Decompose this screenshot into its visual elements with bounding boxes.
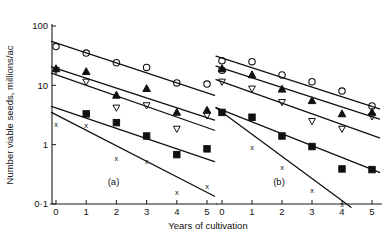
data-point-series-inverted-triangle: [339, 126, 346, 132]
data-point-series-square: [309, 143, 315, 149]
data-point-series-circle: [143, 64, 149, 70]
data-point-series-inverted-triangle: [309, 118, 316, 124]
data-point-series-circle: [309, 79, 315, 85]
fit-line-series-square: [51, 106, 214, 161]
data-point-series-inverted-triangle: [173, 126, 180, 132]
x-axis-tick-label: 1: [249, 206, 254, 217]
data-point-series-inverted-triangle: [113, 105, 120, 111]
fit-line-series-cross: [216, 108, 351, 208]
fit-line-series-inverted-triangle: [51, 73, 214, 130]
x-axis-tick-label: 3: [144, 206, 149, 217]
data-point-series-triangle: [248, 71, 256, 78]
x-axis-tick-label: 0: [219, 206, 224, 217]
data-point-series-circle: [249, 59, 255, 65]
x-axis-tick-label: 0: [53, 206, 58, 217]
data-point-series-triangle: [173, 108, 181, 115]
x-axis-tick-label: 4: [174, 206, 179, 217]
data-point-series-square: [143, 133, 149, 139]
x-axis-tick-label: 5: [369, 206, 374, 217]
data-point-series-square: [339, 166, 345, 172]
data-point-series-triangle: [82, 68, 90, 75]
x-axis-tick-label: 2: [279, 206, 284, 217]
fit-line-series-triangle: [216, 66, 380, 119]
data-point-series-square: [249, 114, 255, 120]
seed-decline-chart: 1001010·1Number viable seeds, millions/a…: [0, 0, 386, 241]
data-point-series-cross: x: [54, 120, 58, 129]
panel-label-b: (b): [273, 176, 285, 187]
data-point-series-circle: [53, 43, 59, 49]
data-point-series-circle: [204, 81, 210, 87]
data-point-series-cross: x: [340, 200, 344, 209]
data-point-series-square: [174, 151, 180, 157]
y-axis-tick-label: 1: [43, 139, 48, 150]
data-point-series-triangle: [143, 85, 151, 92]
fit-line-series-square: [216, 108, 380, 173]
data-point-series-square: [279, 133, 285, 139]
data-point-series-triangle: [338, 110, 346, 117]
data-point-series-cross: x: [220, 109, 224, 118]
x-axis-title: Years of cultivation: [168, 220, 247, 231]
data-point-series-square: [369, 166, 375, 172]
chart-data-layer: xxxxxxxxxxx: [51, 41, 379, 208]
y-axis-tick-label: 100: [32, 20, 48, 31]
data-point-series-cross: x: [84, 121, 88, 130]
fit-line-series-circle: [51, 41, 214, 95]
data-point-series-cross: x: [205, 182, 209, 191]
y-axis-title: Number viable seeds, millions/ac: [4, 45, 15, 184]
x-axis-tick-label: 3: [309, 206, 314, 217]
data-point-series-cross: x: [175, 188, 179, 197]
chart-static-layer: 1001010·1Number viable seeds, millions/a…: [4, 20, 382, 231]
x-axis-tick-label: 2: [114, 206, 119, 217]
fit-line-series-circle: [216, 56, 380, 109]
data-point-series-square: [83, 111, 89, 117]
fit-line-series-inverted-triangle: [216, 80, 380, 138]
data-point-series-cross: x: [250, 143, 254, 152]
data-point-series-cross: x: [280, 163, 284, 172]
data-point-series-square: [113, 119, 119, 125]
data-point-series-cross: x: [115, 154, 119, 163]
panel-label-a: (a): [108, 176, 120, 187]
x-axis-tick-label: 1: [84, 206, 89, 217]
fit-line-series-cross: [51, 112, 214, 196]
y-axis-tick-label: 10: [37, 80, 48, 91]
fit-line-series-triangle: [51, 67, 214, 120]
x-axis-tick-label: 5: [204, 206, 209, 217]
data-point-series-cross: x: [145, 157, 149, 166]
data-point-series-circle: [339, 88, 345, 94]
data-point-series-square: [204, 146, 210, 152]
figure-container: 1001010·1Number viable seeds, millions/a…: [0, 0, 386, 241]
data-point-series-cross: x: [310, 186, 314, 195]
data-point-series-triangle: [203, 106, 211, 113]
y-axis-tick-label: 0·1: [34, 198, 48, 209]
